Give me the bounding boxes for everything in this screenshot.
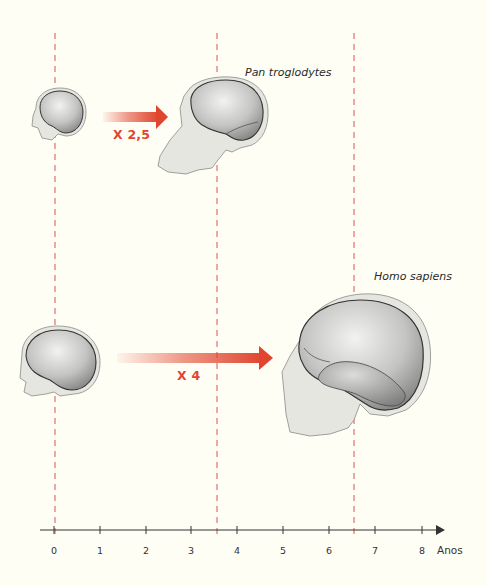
axis-tick-label-7: 7 [372, 545, 378, 556]
axis-tick-label-8: 8 [419, 545, 425, 556]
growth-factor-human: X 4 [177, 368, 200, 383]
human-newborn-skull [20, 326, 100, 396]
growth-factor-chimp: X 2,5 [113, 127, 150, 142]
species-label-homo: Homo sapiens [374, 270, 452, 283]
brain-growth-diagram [0, 0, 487, 586]
axis-tick-label-4: 4 [234, 545, 240, 556]
axis-tick-label-0: 0 [51, 545, 57, 556]
human-adult-skull [282, 294, 431, 436]
chimp-adult-skull [158, 77, 268, 174]
growth-arrow-human [117, 346, 273, 370]
axis-tick-label-6: 6 [326, 545, 332, 556]
axis-tick-label-5: 5 [280, 545, 286, 556]
axis-tick-label-1: 1 [97, 545, 103, 556]
chimp-newborn-skull [32, 88, 86, 140]
time-axis [40, 525, 445, 535]
axis-unit-label: Anos [437, 544, 463, 556]
axis-tick-label-2: 2 [143, 545, 149, 556]
species-label-pan: Pan troglodytes [245, 66, 331, 79]
growth-arrow-chimp [103, 105, 168, 129]
axis-tick-label-3: 3 [188, 545, 194, 556]
axis-arrowhead [436, 525, 445, 535]
